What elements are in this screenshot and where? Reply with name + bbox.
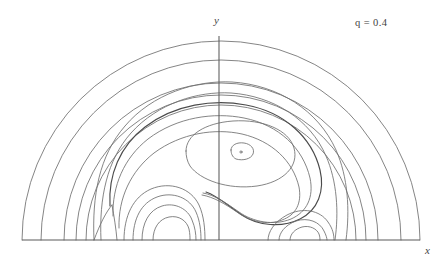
left-cell-contour-1 — [124, 186, 205, 240]
right-cell-group — [268, 211, 334, 240]
inner-contour-group — [94, 82, 348, 240]
outer-contour-2 — [41, 60, 401, 240]
cusp-feature-group — [94, 205, 117, 240]
cusp-left — [94, 205, 112, 240]
vortex-cell-group — [186, 121, 295, 187]
axes-group — [22, 36, 420, 240]
right-cell-contour-3 — [290, 226, 320, 240]
right-cell-contour-1 — [268, 211, 334, 240]
left-cell-group — [124, 186, 205, 240]
parameter-annotation: q = 0.4 — [355, 17, 387, 28]
outer-boundary-arc — [22, 41, 420, 240]
cusp-right — [112, 205, 117, 240]
separatrix-contour — [110, 103, 322, 225]
contour-plot-svg — [0, 0, 442, 268]
y-axis-label: y — [214, 14, 219, 26]
inner-contour-1 — [94, 82, 348, 240]
x-axis-label: x — [425, 244, 430, 256]
vortex-cell-outer — [186, 121, 295, 187]
contour-plot-figure: y x q = 0.4 — [0, 0, 442, 268]
left-cell-contour-4 — [153, 217, 190, 240]
left-cell-contour-3 — [142, 205, 196, 240]
outer-contour-group — [22, 41, 420, 240]
vortex-center-point — [240, 151, 242, 153]
